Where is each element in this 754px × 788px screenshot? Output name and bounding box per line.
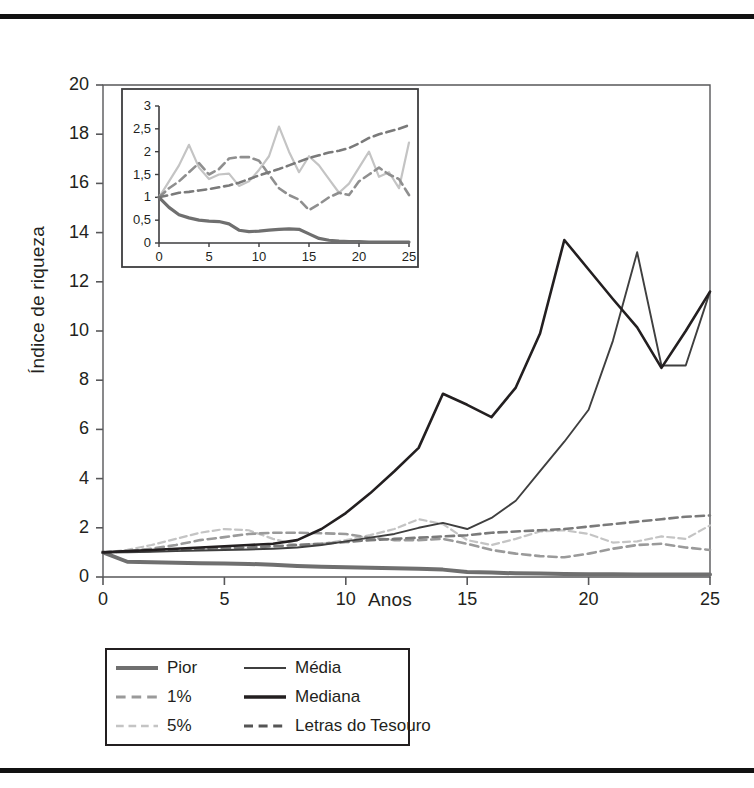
y-axis-tick-label: 6 xyxy=(47,418,89,439)
legend-swatch-letras-do-tesouro xyxy=(243,719,287,733)
x-axis-tick-label: 20 xyxy=(569,589,609,610)
legend-swatch-pior xyxy=(115,661,159,675)
series-line-pior xyxy=(103,552,710,574)
legend-item[interactable]: 1% xyxy=(115,687,243,707)
main-chart: Índice de riqueza Anos 02468101214161820… xyxy=(0,19,754,629)
inset-y-axis-tick-label: 0 xyxy=(121,235,151,250)
series-line-1- xyxy=(103,533,710,558)
bottom-divider-rule xyxy=(0,768,754,773)
legend-item[interactable]: 5% xyxy=(115,716,243,736)
y-axis-tick-label: 10 xyxy=(47,320,89,341)
legend-label: 5% xyxy=(167,716,192,736)
legend-label: Pior xyxy=(167,658,197,678)
legend-label: Letras do Tesouro xyxy=(295,716,431,736)
inset-x-axis-tick-label: 10 xyxy=(246,249,272,264)
series-line-m-dia xyxy=(103,252,710,552)
y-axis-tick-label: 18 xyxy=(47,123,89,144)
x-axis-tick-label: 0 xyxy=(83,589,123,610)
legend-grid: PiorMédia1%Mediana5%Letras do Tesouro xyxy=(107,650,408,744)
legend-label: 1% xyxy=(167,687,192,707)
legend-swatch-1- xyxy=(115,690,159,704)
inset-y-axis-tick-label: 1 xyxy=(121,189,151,204)
inset-y-axis-tick-label: 2 xyxy=(121,144,151,159)
inset-x-axis-tick-label: 15 xyxy=(296,249,322,264)
y-axis-tick-label: 14 xyxy=(47,222,89,243)
inset-x-axis-tick-label: 20 xyxy=(346,249,372,264)
legend-label: Mediana xyxy=(295,687,360,707)
main-chart-svg xyxy=(0,19,754,629)
legend-item[interactable]: Média xyxy=(243,658,420,678)
y-axis-title: Índice de riqueza xyxy=(27,200,49,400)
inset-x-axis-tick-label: 0 xyxy=(146,249,172,264)
x-axis-tick-label: 10 xyxy=(326,589,366,610)
y-axis-tick-label: 12 xyxy=(47,271,89,292)
figure-container: Índice de riqueza Anos 02468101214161820… xyxy=(0,19,754,768)
inset-y-axis-tick-label: 1,5 xyxy=(121,167,151,182)
x-axis-tick-label: 25 xyxy=(690,589,730,610)
inset-x-axis-tick-label: 25 xyxy=(396,249,422,264)
legend-label: Média xyxy=(295,658,341,678)
y-axis-tick-label: 8 xyxy=(47,369,89,390)
inset-x-axis-tick-label: 5 xyxy=(196,249,222,264)
y-axis-tick-label: 0 xyxy=(47,566,89,587)
x-axis-tick-label: 15 xyxy=(447,589,487,610)
legend-item[interactable]: Pior xyxy=(115,658,243,678)
inset-y-axis-tick-label: 3 xyxy=(121,98,151,113)
legend-swatch-m-dia xyxy=(243,661,287,675)
series-line-mediana xyxy=(103,240,710,552)
legend-swatch-mediana xyxy=(243,690,287,704)
x-axis-tick-label: 5 xyxy=(204,589,244,610)
chart-legend: PiorMédia1%Mediana5%Letras do Tesouro xyxy=(105,648,410,746)
legend-swatch-5- xyxy=(115,719,159,733)
legend-item[interactable]: Letras do Tesouro xyxy=(243,716,420,736)
y-axis-tick-label: 4 xyxy=(47,468,89,489)
y-axis-tick-label: 20 xyxy=(47,74,89,95)
inset-y-axis-tick-label: 0,5 xyxy=(121,212,151,227)
legend-item[interactable]: Mediana xyxy=(243,687,420,707)
y-axis-tick-label: 2 xyxy=(47,517,89,538)
inset-y-axis-tick-label: 2,5 xyxy=(121,121,151,136)
y-axis-tick-label: 16 xyxy=(47,172,89,193)
